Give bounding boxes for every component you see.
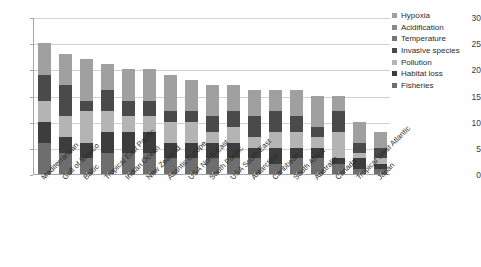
bar-segment: [269, 111, 282, 132]
legend-item-label: Hypoxia: [401, 11, 430, 20]
bar-segment: [227, 111, 240, 127]
bar-segment: [101, 111, 114, 132]
bar-segment: [38, 101, 51, 122]
bar-segment: [227, 127, 240, 143]
bar-segment: [332, 111, 345, 132]
y-axis-tick-label: 5: [455, 145, 481, 153]
bar-segment: [227, 85, 240, 111]
bar-segment: [311, 127, 324, 137]
bar-segment: [269, 90, 282, 111]
bar-segment: [38, 75, 51, 101]
bar-segment: [248, 116, 261, 137]
legend-swatch-icon: [392, 48, 397, 53]
legend-item-label: Acidification: [401, 23, 444, 32]
bar-segment: [164, 75, 177, 112]
bar-segment: [122, 69, 135, 100]
legend-item-label: Habitat loss: [401, 69, 443, 78]
y-axis-tick-label: 10: [455, 119, 481, 127]
bar-segment: [206, 132, 219, 142]
legend-item-label: Pollution: [401, 58, 432, 67]
bar-segment: [290, 132, 303, 148]
legend-swatch-icon: [392, 71, 397, 76]
bar-segment: [59, 54, 72, 85]
bar-segment: [206, 116, 219, 132]
legend-item[interactable]: Temperature: [392, 33, 478, 45]
bar-segment: [185, 111, 198, 121]
x-axis-labels: MediterraneanGulf of MexicoBalticTropica…: [33, 176, 390, 267]
legend-item-label: Fisheries: [401, 81, 433, 90]
bar-segment: [101, 90, 114, 111]
bar-segment: [164, 111, 177, 121]
y-axis-tick-label: 15: [455, 93, 481, 101]
bar-segment: [311, 96, 324, 127]
legend-item[interactable]: Pollution: [392, 56, 478, 68]
bar-segment: [353, 143, 366, 153]
bar-segment: [206, 85, 219, 116]
bar-segment: [143, 69, 156, 100]
bar-segment: [332, 96, 345, 112]
bar-segment: [311, 137, 324, 147]
bar-segment: [185, 80, 198, 111]
bar-segment: [143, 101, 156, 117]
bar-segment: [290, 116, 303, 132]
bar-segment: [122, 116, 135, 132]
bar-segment: [122, 101, 135, 117]
chart-legend: HypoxiaAcidificationTemperatureInvasive …: [392, 10, 478, 91]
bar-segment: [38, 43, 51, 74]
bar-segment: [185, 122, 198, 143]
bar-stack[interactable]: [38, 43, 51, 174]
bar-stack[interactable]: [101, 64, 114, 174]
legend-swatch-icon: [392, 60, 397, 65]
bar-segment: [290, 90, 303, 116]
bar-segment: [353, 122, 366, 143]
legend-swatch-icon: [392, 25, 397, 30]
legend-item[interactable]: Habitat loss: [392, 68, 478, 80]
bar-segment: [80, 111, 93, 142]
legend-item[interactable]: Acidification: [392, 22, 478, 34]
bar-segment: [101, 132, 114, 153]
legend-item-label: Temperature: [401, 34, 446, 43]
bar-segment: [38, 122, 51, 143]
bar-segment: [80, 59, 93, 101]
legend-item-label: Invasive species: [401, 46, 460, 55]
bar-segment: [80, 101, 93, 111]
bar-segment: [59, 116, 72, 137]
legend-swatch-icon: [392, 13, 397, 18]
y-axis-tick-label: 0: [455, 171, 481, 179]
bar-segment: [164, 122, 177, 143]
legend-item[interactable]: Invasive species: [392, 45, 478, 57]
legend-swatch-icon: [392, 36, 397, 41]
stacked-bar-chart: 051015202530 MediterraneanGulf of Mexico…: [0, 0, 481, 267]
bar-segment: [59, 85, 72, 116]
legend-item[interactable]: Fisheries: [392, 80, 478, 92]
legend-swatch-icon: [392, 83, 397, 88]
bar-segment: [101, 64, 114, 90]
bar-segment: [248, 90, 261, 116]
legend-item[interactable]: Hypoxia: [392, 10, 478, 22]
